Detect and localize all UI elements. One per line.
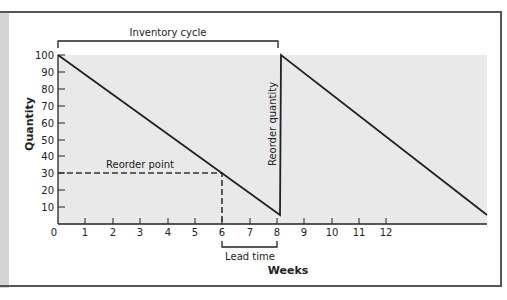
inventory-chart: Inventory cycle 100 90 80 70 60 50 40 30… bbox=[0, 0, 507, 300]
svg-text:10: 10 bbox=[41, 202, 54, 213]
svg-text:11: 11 bbox=[353, 227, 366, 238]
inventory-cycle-bracket bbox=[58, 41, 278, 48]
svg-text:12: 12 bbox=[380, 227, 393, 238]
reorder-point-label: Reorder point bbox=[106, 159, 174, 170]
y-tick-labels: 100 90 80 70 60 50 40 30 20 10 bbox=[35, 50, 54, 213]
lead-time-label: Lead time bbox=[225, 251, 275, 262]
svg-text:8: 8 bbox=[274, 227, 280, 238]
y-axis-title: Quantity bbox=[23, 97, 36, 151]
svg-text:5: 5 bbox=[192, 227, 198, 238]
svg-text:50: 50 bbox=[41, 135, 54, 146]
svg-text:0: 0 bbox=[51, 227, 57, 238]
svg-text:90: 90 bbox=[41, 67, 54, 78]
inventory-cycle-label: Inventory cycle bbox=[130, 27, 207, 38]
svg-text:30: 30 bbox=[41, 168, 54, 179]
svg-text:9: 9 bbox=[301, 227, 307, 238]
x-tick-labels: 0 1 2 3 4 5 6 7 8 9 10 11 12 bbox=[51, 227, 393, 238]
lead-time-bracket bbox=[222, 241, 277, 247]
svg-text:100: 100 bbox=[35, 50, 54, 61]
x-axis-title: Weeks bbox=[268, 264, 309, 277]
svg-text:40: 40 bbox=[41, 151, 54, 162]
svg-text:6: 6 bbox=[219, 227, 225, 238]
svg-text:3: 3 bbox=[137, 227, 143, 238]
svg-text:7: 7 bbox=[247, 227, 253, 238]
svg-text:10: 10 bbox=[326, 227, 339, 238]
svg-text:1: 1 bbox=[82, 227, 88, 238]
svg-text:60: 60 bbox=[41, 118, 54, 129]
svg-text:4: 4 bbox=[165, 227, 171, 238]
svg-text:20: 20 bbox=[41, 185, 54, 196]
svg-text:80: 80 bbox=[41, 84, 54, 95]
svg-text:2: 2 bbox=[110, 227, 116, 238]
reorder-quantity-label: Reorder quantity bbox=[267, 82, 278, 166]
svg-text:70: 70 bbox=[41, 101, 54, 112]
